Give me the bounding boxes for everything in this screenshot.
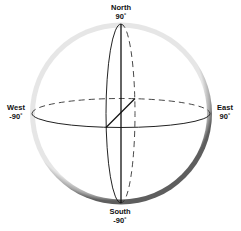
- label-west: West -90˚: [0, 103, 36, 121]
- label-west-value: -90˚: [0, 112, 36, 121]
- label-north-value: 90˚: [101, 12, 141, 21]
- label-north: North 90˚: [101, 3, 141, 21]
- label-west-name: West: [0, 103, 36, 112]
- label-north-name: North: [101, 3, 141, 12]
- label-south: South -90˚: [100, 207, 140, 225]
- label-east-value: 90˚: [205, 112, 241, 121]
- label-south-name: South: [100, 207, 140, 216]
- label-east: East 90˚: [205, 103, 241, 121]
- label-south-value: -90˚: [100, 216, 140, 225]
- sphere-diagram: North 90˚ South -90˚ West -90˚ East 90˚: [0, 0, 241, 231]
- label-east-name: East: [205, 103, 241, 112]
